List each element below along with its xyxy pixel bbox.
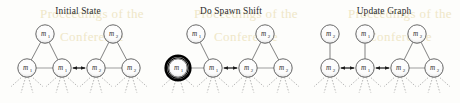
node-label: m (174, 64, 179, 72)
node-label: m (361, 30, 366, 38)
node-label: m (413, 30, 418, 38)
node-label: m (23, 64, 28, 72)
node-bottom-1[interactable]: m1 (356, 59, 374, 78)
state-transition-diagram: Proceedings of the Conference Proceeding… (0, 0, 460, 103)
node-label: m (192, 30, 197, 38)
node-label: m (41, 30, 46, 38)
node-bottom-0[interactable]: m1 (166, 56, 191, 81)
node-label: m (326, 64, 331, 72)
panel-title-initial-state: Initial State (55, 6, 100, 16)
panel-title-update-graph: Update Graph (357, 6, 412, 16)
node-bottom-0[interactable]: m1 (18, 59, 36, 78)
node-bottom-1[interactable]: m1 (204, 59, 222, 78)
node-bottom-1[interactable]: m1 (53, 59, 71, 78)
node-bottom-2[interactable]: m2 (391, 59, 409, 78)
node-label: m (261, 30, 266, 38)
node-label: m (430, 64, 435, 72)
node-bottom-2[interactable]: m2 (87, 59, 105, 78)
node-label: m (209, 64, 214, 72)
node-label: m (244, 64, 249, 72)
node-top-1[interactable]: m2 (256, 25, 274, 44)
node-label: m (109, 30, 114, 38)
node-label: m (279, 64, 284, 72)
node-top-0[interactable]: m1 (187, 25, 205, 44)
node-label: m (396, 64, 401, 72)
node-top-1[interactable]: m1 (356, 25, 374, 44)
node-top-0[interactable]: m1 (36, 25, 54, 44)
node-bottom-3[interactable]: m2 (274, 59, 292, 78)
panel-title-do-spawn-shift: Do Spawn Shift (200, 6, 262, 16)
node-label: m (326, 30, 331, 38)
node-top-1[interactable]: m2 (104, 25, 122, 44)
node-label: m (58, 64, 63, 72)
node-label: m (127, 64, 132, 72)
node-top-0[interactable]: m2 (321, 25, 339, 44)
node-bottom-2[interactable]: m2 (239, 59, 257, 78)
node-bottom-3[interactable]: m2 (425, 59, 443, 78)
node-top-2[interactable]: m2 (408, 25, 426, 44)
node-bottom-0[interactable]: m2 (321, 59, 339, 78)
node-label: m (361, 64, 366, 72)
node-bottom-3[interactable]: m2 (122, 59, 140, 78)
node-label: m (92, 64, 97, 72)
